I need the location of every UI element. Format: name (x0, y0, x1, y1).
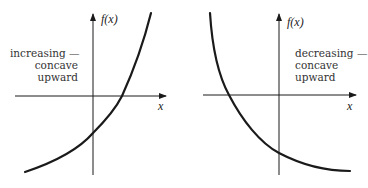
left-increasing-curve (25, 13, 151, 172)
left-y-axis-label: f(x) (101, 13, 118, 25)
right-panel (203, 13, 356, 175)
left-desc-line-3: upward (10, 71, 78, 83)
left-desc-line-1: increasing — (10, 47, 78, 59)
right-x-axis-label: x (347, 100, 352, 112)
left-x-axis-label: x (158, 100, 163, 112)
right-y-axis-label: f(x) (287, 16, 304, 28)
right-description: decreasing — concave upward (295, 47, 367, 83)
right-desc-line-3: upward (295, 71, 367, 83)
left-panel (15, 13, 166, 175)
left-description: increasing — concave upward (10, 47, 78, 83)
right-desc-line-1: decreasing — (295, 47, 367, 59)
left-desc-line-2: concave (10, 59, 78, 71)
diagram-canvas (0, 0, 368, 188)
right-desc-line-2: concave (295, 59, 367, 71)
right-decreasing-curve (210, 13, 350, 171)
